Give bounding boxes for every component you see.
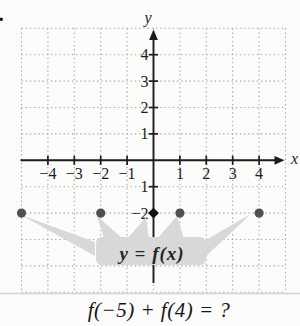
data-point (148, 208, 159, 219)
x-tick-label: −1 (119, 165, 136, 182)
question-text: f(−5) + f(4) = ? (88, 298, 231, 322)
data-point (17, 209, 26, 218)
y-tick-label: 4 (141, 46, 149, 63)
function-graph: −4−3−2−1123443211−2 y = f(x) y x f(−5) +… (0, 0, 300, 326)
callout-label: y = f(x) (117, 243, 184, 265)
x-tick-label: −3 (66, 165, 83, 182)
data-point (175, 209, 184, 218)
x-tick-label: 4 (255, 165, 263, 182)
x-tick-label: −4 (39, 165, 56, 182)
y-axis-arrowhead (149, 30, 158, 41)
problem-number: 2. (0, 2, 4, 26)
y-tick-label: 1 (141, 178, 149, 195)
x-tick-label: −2 (92, 165, 109, 182)
x-tick-label: 3 (229, 165, 237, 182)
y-tick-label: 3 (141, 73, 149, 90)
y-tick-label: 2 (141, 99, 149, 116)
data-point (96, 209, 105, 218)
x-axis-arrowhead (275, 156, 285, 165)
y-axis-label: y (142, 9, 152, 27)
x-axis-label: x (290, 150, 298, 167)
textbook-figure: −4−3−2−1123443211−2 y = f(x) y x f(−5) +… (0, 0, 300, 326)
x-tick-label: 1 (176, 165, 184, 182)
y-tick-label: 1 (141, 125, 149, 142)
data-point (255, 209, 264, 218)
x-tick-label: 2 (202, 165, 210, 182)
